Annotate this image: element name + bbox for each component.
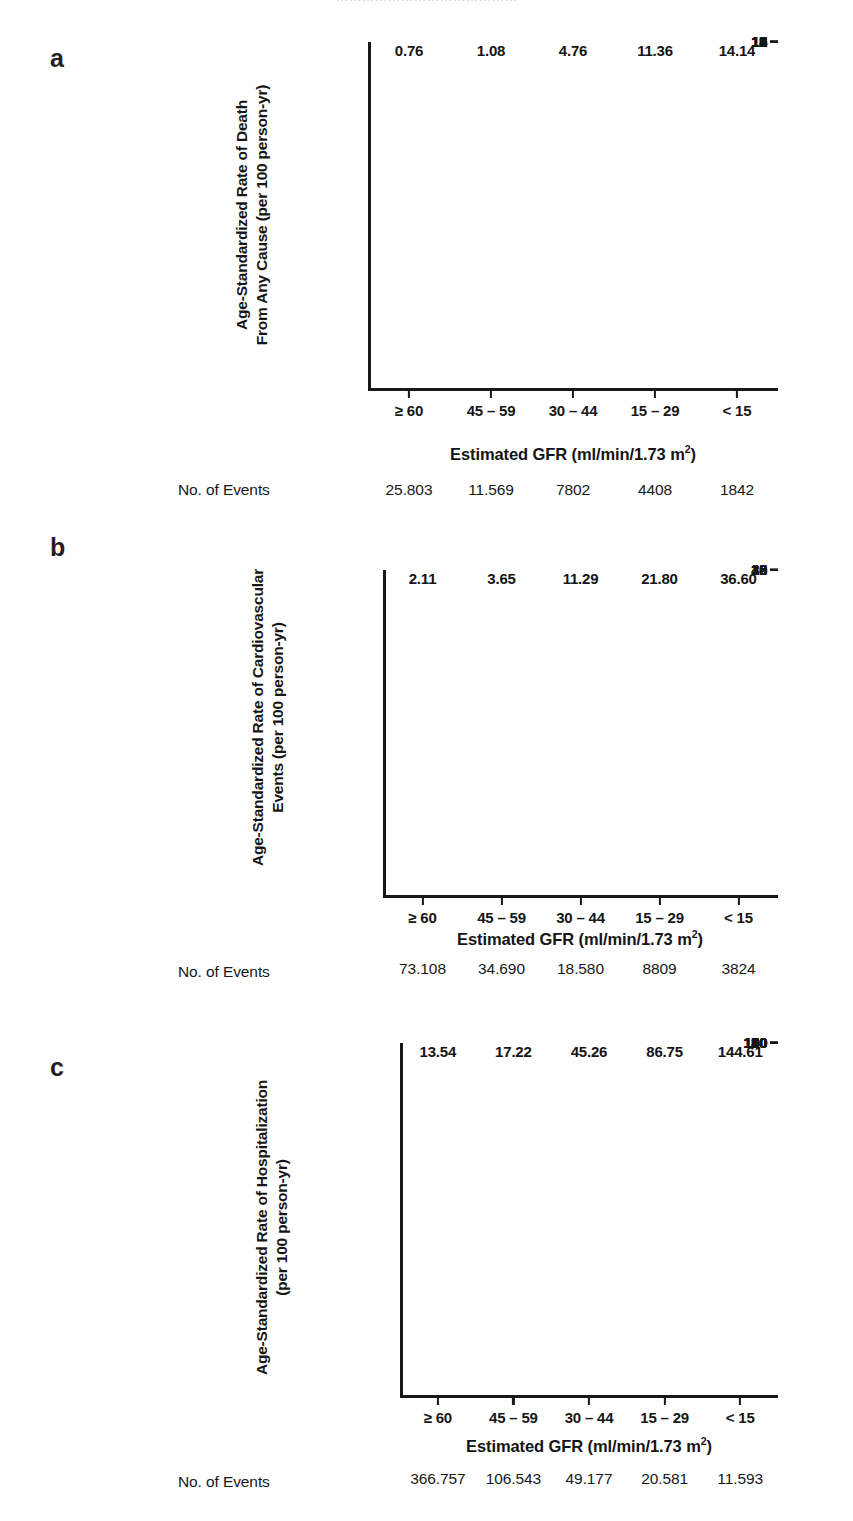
panel-a-x-tick-mark xyxy=(408,390,410,398)
panel-b-y-axis-title-line2: Events (per 100 person-yr) xyxy=(269,622,286,812)
panel-c-events-value: 11.593 xyxy=(717,1470,763,1488)
panel-b-x-tick-mark xyxy=(500,897,502,905)
panel-c-events-value: 106.543 xyxy=(486,1470,541,1488)
figure-page: { "figure": { "cropped_header_text": "……… xyxy=(0,0,853,1521)
panel-b-x-axis-title: Estimated GFR (ml/min/1.73 m2) xyxy=(457,928,703,949)
panel-b-x-tick-label: < 15 xyxy=(724,909,753,926)
panel-a-events-value: 1842 xyxy=(720,481,754,499)
panel-a-y-axis-title-line1: Age-Standardized Rate of Death xyxy=(233,100,250,330)
panel-b: b Age-Standardized Rate of Cardiovascula… xyxy=(0,510,853,1010)
bar-value-label: 0.76 xyxy=(395,42,423,59)
panel-b-events-value: 73.108 xyxy=(399,960,446,978)
bar-value-label: 45.26 xyxy=(571,1043,608,1060)
panel-b-y-axis-title: Age-Standardized Rate of Cardiovascular … xyxy=(248,540,289,895)
panel-a-x-tick-label: ≥ 60 xyxy=(395,402,423,419)
panel-b-x-tick-mark xyxy=(421,897,423,905)
panel-a-plot-area: 01234567891011121314150.76≥ 6025.8031.08… xyxy=(368,42,778,388)
panel-a-events-value: 25.803 xyxy=(386,481,433,499)
panel-c-x-axis-title-main: Estimated GFR (ml/min/1.73 m xyxy=(466,1437,701,1455)
panel-a-y-axis-line xyxy=(368,42,371,390)
panel-b-x-tick-label: 15 – 29 xyxy=(635,909,684,926)
bar-value-label: 14.14 xyxy=(719,42,756,59)
panel-c-x-tick-label: < 15 xyxy=(726,1409,755,1426)
panel-b-x-tick-mark xyxy=(658,897,660,905)
panel-c-events-value: 366.757 xyxy=(410,1470,465,1488)
panel-b-events-value: 34.690 xyxy=(478,960,525,978)
panel-a-x-tick-label: 30 – 44 xyxy=(549,402,598,419)
panel-c-x-tick-label: 30 – 44 xyxy=(565,1409,614,1426)
panel-a-x-tick-label: 15 – 29 xyxy=(631,402,680,419)
panel-c-x-tick-mark xyxy=(664,1397,666,1405)
bar-value-label: 17.22 xyxy=(495,1043,532,1060)
panel-b-x-tick-mark xyxy=(579,897,581,905)
panel-letter-b: b xyxy=(50,533,65,562)
panel-b-y-axis-title-line1: Age-Standardized Rate of Cardiovascular xyxy=(249,569,266,866)
panel-c-y-axis-title-line2: (per 100 person-yr) xyxy=(273,1159,290,1296)
bar-value-label: 36.60 xyxy=(720,570,757,587)
panel-b-x-axis-title-close: ) xyxy=(698,930,703,948)
bar-value-label: 2.11 xyxy=(409,570,437,587)
panel-c-y-axis-title-line1: Age-Standardized Rate of Hospitalization xyxy=(253,1080,270,1375)
panel-c-x-axis-title-close: ) xyxy=(707,1437,712,1455)
panel-c-x-tick-mark xyxy=(512,1397,514,1405)
panel-c-events-row-label: No. of Events xyxy=(178,1473,270,1491)
panel-a-x-tick-mark xyxy=(654,390,656,398)
panel-a-x-axis-title-main: Estimated GFR (ml/min/1.73 m xyxy=(450,445,685,463)
panel-a-y-axis-title-line2: From Any Cause (per 100 person-yr) xyxy=(253,85,270,346)
panel-b-events-value: 8809 xyxy=(642,960,676,978)
panel-a-events-value: 11.569 xyxy=(468,481,514,499)
panel-b-events-row-label: No. of Events xyxy=(178,963,270,981)
panel-a-events-value: 4408 xyxy=(638,481,672,499)
panel-a-x-tick-mark xyxy=(490,390,492,398)
panel-c-y-tick-mark xyxy=(770,1042,778,1044)
panel-c-events-value: 20.581 xyxy=(641,1470,688,1488)
bar-value-label: 3.65 xyxy=(487,570,515,587)
panel-c-y-axis-line xyxy=(400,1043,403,1397)
panel-c-y-axis-title: Age-Standardized Rate of Hospitalization… xyxy=(252,1055,293,1400)
panel-a-y-axis-title: Age-Standardized Rate of Death From Any … xyxy=(232,40,273,390)
panel-b-y-tick-mark xyxy=(770,569,778,571)
panel-c-events-value: 49.177 xyxy=(566,1470,613,1488)
panel-b-x-tick-label: 30 – 44 xyxy=(556,909,605,926)
panel-a-x-tick-mark xyxy=(736,390,738,398)
panel-a-events-value: 7802 xyxy=(556,481,590,499)
panel-a-y-tick-mark xyxy=(770,41,778,43)
bar-value-label: 21.80 xyxy=(641,570,678,587)
panel-a-x-tick-mark xyxy=(572,390,574,398)
bar-value-label: 1.08 xyxy=(477,42,505,59)
panel-c-x-axis-title: Estimated GFR (ml/min/1.73 m2) xyxy=(466,1435,712,1456)
panel-b-plot-area: 02101520253035402.11≥ 6073.1083.6545 – 5… xyxy=(383,570,778,895)
bar-value-label: 144.61 xyxy=(718,1043,763,1060)
panel-letter-a: a xyxy=(50,44,64,73)
panel-b-x-axis-title-main: Estimated GFR (ml/min/1.73 m xyxy=(457,930,692,948)
panel-c-plot-area: 010203040506070809010011012013014015013.… xyxy=(400,1043,778,1395)
bar-value-label: 11.29 xyxy=(563,570,599,587)
panel-letter-c: c xyxy=(50,1053,64,1082)
panel-a-x-tick-label: 45 – 59 xyxy=(467,402,516,419)
panel-b-x-tick-label: 45 – 59 xyxy=(477,909,526,926)
panel-a-x-tick-label: < 15 xyxy=(723,402,752,419)
panel-b-x-tick-label: ≥ 60 xyxy=(408,909,436,926)
panel-c-x-tick-mark xyxy=(739,1397,741,1405)
panel-c: c Age-Standardized Rate of Hospitalizati… xyxy=(0,1010,853,1521)
bar-value-label: 86.75 xyxy=(646,1043,683,1060)
panel-c-x-tick-label: 15 – 29 xyxy=(640,1409,689,1426)
panel-a: a Age-Standardized Rate of Death From An… xyxy=(0,0,853,510)
panel-a-events-row-label: No. of Events xyxy=(178,481,270,499)
panel-c-x-tick-label: 45 – 59 xyxy=(489,1409,538,1426)
panel-b-events-value: 3824 xyxy=(721,960,755,978)
panel-b-x-tick-mark xyxy=(737,897,739,905)
panel-c-x-tick-mark xyxy=(588,1397,590,1405)
panel-b-events-value: 18.580 xyxy=(557,960,604,978)
bar-value-label: 13.54 xyxy=(420,1043,457,1060)
panel-a-x-axis-title-close: ) xyxy=(691,445,696,463)
bar-value-label: 11.36 xyxy=(637,42,673,59)
panel-c-x-tick-mark xyxy=(437,1397,439,1405)
panel-a-x-axis-title: Estimated GFR (ml/min/1.73 m2) xyxy=(450,443,696,464)
panel-c-x-tick-label: ≥ 60 xyxy=(424,1409,452,1426)
bar-value-label: 4.76 xyxy=(559,42,587,59)
panel-b-y-axis-line xyxy=(383,570,386,897)
